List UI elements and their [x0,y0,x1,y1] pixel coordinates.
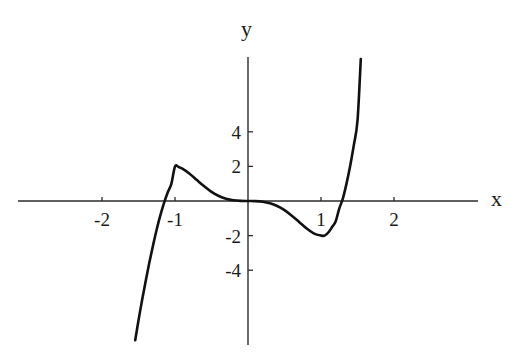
x-axis-label: x [491,188,502,210]
x-tick-label: -2 [94,210,110,229]
y-axis-label: y [241,18,252,40]
chart-figure: y x -2-112 42-2-4 [0,0,518,356]
plot-canvas [0,0,518,356]
y-tick-label: 4 [232,122,242,141]
y-tick-label: -4 [225,261,241,280]
y-tick-label: -2 [225,226,241,245]
x-tick-label: 1 [316,210,326,229]
x-tick-label: -1 [167,210,183,229]
x-tick-label: 2 [389,210,399,229]
y-tick-label: 2 [232,157,242,176]
